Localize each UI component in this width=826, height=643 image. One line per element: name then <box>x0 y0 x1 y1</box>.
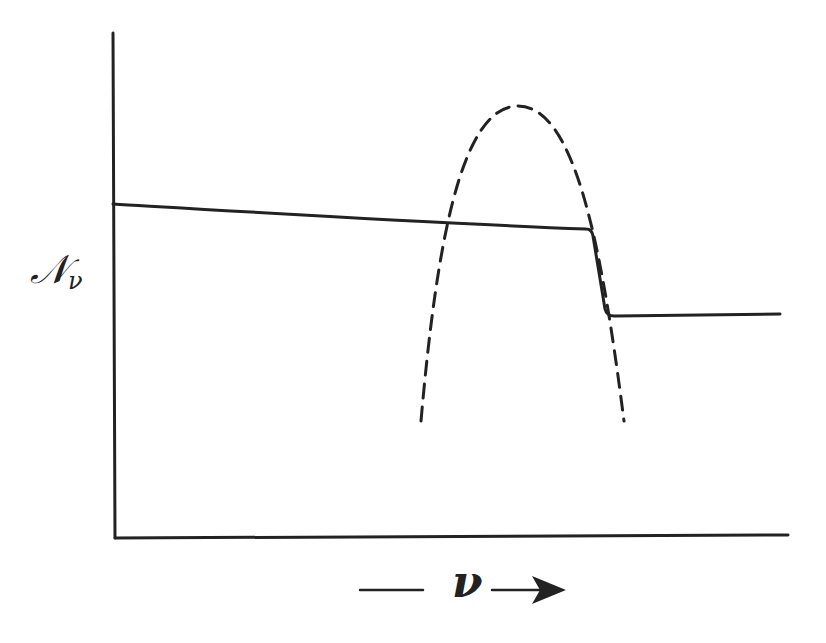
solid-curve <box>113 204 780 316</box>
diagram-canvas <box>0 0 826 643</box>
dashed-curve <box>421 106 624 421</box>
x-axis <box>115 535 788 538</box>
y-axis-symbol: 𝒩 <box>30 246 68 292</box>
y-axis-subscript: ν <box>68 267 83 295</box>
y-axis <box>113 33 115 538</box>
y-axis-label: 𝒩ν <box>30 246 83 295</box>
x-axis-label: ν <box>358 562 578 612</box>
x-axis-symbol: ν <box>452 556 483 607</box>
